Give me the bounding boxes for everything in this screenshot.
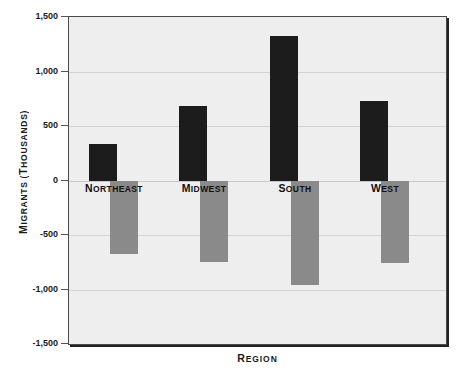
gridline-1000 bbox=[69, 72, 446, 73]
y-tick-mark bbox=[61, 343, 68, 344]
y-axis-title: MIGRANTS (THOUSANDS) bbox=[18, 87, 30, 257]
category-label-south: SOUTH bbox=[254, 183, 336, 195]
y-tick-mark bbox=[61, 71, 68, 72]
y-tick-mark bbox=[61, 125, 68, 126]
gridline-500 bbox=[69, 126, 446, 127]
y-tick-mark bbox=[61, 289, 68, 290]
bar-south-out bbox=[291, 181, 319, 285]
bar-south-in bbox=[270, 36, 298, 181]
plot-area: NORTHEAST MIDWEST SOUTH WEST bbox=[69, 17, 446, 344]
migration-bar-chart: 1,500 1,000 500 0 -500 -1,000 -1,500 MIG… bbox=[0, 0, 465, 373]
y-tick-label: -1,500 bbox=[32, 338, 58, 348]
bar-west-in bbox=[360, 101, 388, 181]
category-label-northeast: NORTHEAST bbox=[73, 183, 155, 195]
y-tick-mark bbox=[61, 180, 68, 181]
y-tick-label: 500 bbox=[43, 120, 58, 130]
category-label-midwest: MIDWEST bbox=[163, 183, 245, 195]
y-tick-mark bbox=[61, 16, 68, 17]
x-axis-title: REGION bbox=[68, 353, 447, 365]
y-tick-label: 1,500 bbox=[35, 11, 58, 21]
y-tick-mark bbox=[61, 234, 68, 235]
y-tick-label: -1,000 bbox=[32, 284, 58, 294]
category-label-west: WEST bbox=[344, 183, 426, 195]
y-tick-label: 0 bbox=[53, 175, 58, 185]
plot-frame: NORTHEAST MIDWEST SOUTH WEST bbox=[68, 16, 447, 345]
bar-midwest-in bbox=[179, 106, 207, 181]
y-tick-label: 1,000 bbox=[35, 66, 58, 76]
y-tick-label: -500 bbox=[40, 229, 58, 239]
gridline-neg1000 bbox=[69, 290, 446, 291]
bar-northeast-in bbox=[89, 144, 117, 181]
